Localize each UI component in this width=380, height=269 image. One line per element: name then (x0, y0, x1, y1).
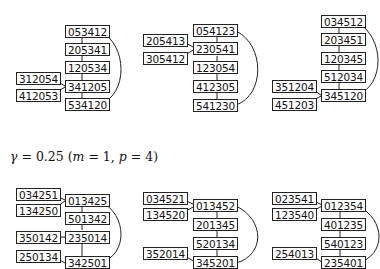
node-chain: 013425 (65, 194, 110, 207)
node-chain: 054123 (193, 24, 238, 37)
node-side: 134520 (143, 208, 188, 221)
node-chain: 345120 (321, 89, 366, 102)
node-chain: 034512 (321, 15, 366, 28)
node-chain: 205341 (65, 43, 110, 56)
p-value: = 4) (127, 149, 158, 164)
caption-text: = 0.25 ( (17, 149, 72, 164)
node-chain: 512034 (321, 70, 366, 83)
node-side: 123540 (272, 208, 317, 221)
node-side: 305412 (143, 52, 188, 65)
node-chain: 120345 (321, 52, 366, 65)
node-chain: 342501 (65, 256, 110, 269)
node-chain: 203451 (321, 33, 366, 46)
m-symbol: m (73, 149, 85, 164)
m-value: = 1, (84, 149, 118, 164)
node-chain: 520134 (193, 237, 238, 250)
node-side: 412053 (16, 89, 61, 102)
node-side: 034251 (16, 188, 61, 201)
p-symbol: p (119, 149, 127, 164)
node-side: 205413 (143, 34, 188, 47)
node-chain: 230541 (193, 42, 238, 55)
node-chain: 401235 (321, 218, 366, 231)
node-chain: 120534 (65, 61, 110, 74)
node-chain: 341205 (65, 80, 110, 93)
node-chain: 123054 (193, 61, 238, 74)
node-chain: 540123 (321, 237, 366, 250)
node-chain: 013452 (193, 199, 238, 212)
node-chain: 012354 (321, 199, 366, 212)
node-chain: 412305 (193, 80, 238, 93)
node-chain: 541230 (193, 99, 238, 112)
node-side: 134250 (16, 204, 61, 217)
node-side: 350142 (16, 231, 61, 244)
node-side: 034521 (143, 192, 188, 205)
node-chain: 235014 (65, 231, 110, 244)
node-side: 254013 (272, 247, 317, 260)
node-chain: 053412 (65, 25, 110, 38)
node-side: 352014 (143, 247, 188, 260)
node-side: 250134 (16, 250, 61, 263)
node-chain: 201345 (193, 218, 238, 231)
node-side: 351204 (272, 80, 317, 93)
node-chain: 501342 (65, 212, 110, 225)
node-chain: 345201 (193, 256, 238, 269)
node-side: 312054 (16, 72, 61, 85)
gamma-caption: γ = 0.25 (m = 1, p = 4) (10, 149, 158, 164)
node-side: 023541 (272, 192, 317, 205)
node-chain: 534120 (65, 98, 110, 111)
node-side: 451203 (272, 98, 317, 111)
node-chain: 235401 (321, 256, 366, 269)
